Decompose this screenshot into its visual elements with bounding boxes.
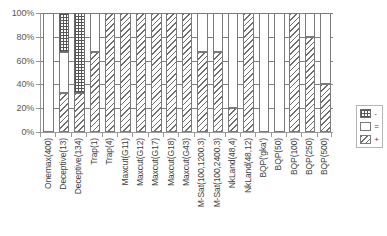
bar-slot: [118, 13, 133, 132]
stacked-bar[interactable]: [182, 13, 192, 132]
legend-item[interactable]: -: [360, 108, 379, 119]
x-label-cell: M-Sat(100,2400.3): [209, 138, 224, 236]
stacked-bar[interactable]: [213, 13, 223, 132]
stacked-bar[interactable]: [274, 13, 284, 132]
x-label-cell: BQP('gka'): [255, 138, 270, 236]
bar-segment-equal: [197, 13, 207, 52]
bar-slot: [302, 13, 317, 132]
x-tick-mark: [117, 133, 118, 137]
x-tick-cell: [209, 133, 224, 137]
bar-segment-equal: [59, 52, 69, 92]
stacked-bar[interactable]: [43, 13, 53, 132]
x-tick-mark: [209, 133, 210, 137]
x-tick-label: Deceptive(13): [58, 138, 68, 190]
x-tick-mark: [132, 133, 133, 137]
x-tick-label: Maxcut(G11): [120, 138, 130, 185]
x-tick-cell: [163, 133, 178, 137]
x-tick-cell: [301, 133, 316, 137]
stacked-bar[interactable]: [228, 13, 238, 132]
bar-segment-plus: [305, 37, 315, 132]
x-tick-cell: [132, 133, 147, 137]
stacked-bar[interactable]: [320, 13, 330, 132]
stacked-bar[interactable]: [136, 13, 146, 132]
bar-slot: [72, 13, 87, 132]
bar-slot: [179, 13, 194, 132]
x-axis-labels: Onemax(400)Deceptive(13)Deceptive(134)Tr…: [40, 138, 332, 236]
x-tick-label: NkLand(48,4): [227, 138, 237, 188]
bar-slot: [56, 13, 71, 132]
x-tick-label: NkLand(48,12): [243, 138, 253, 193]
legend-label: -: [374, 109, 377, 118]
stacked-bar[interactable]: [305, 13, 315, 132]
stacked-bar[interactable]: [120, 13, 130, 132]
stacked-bar[interactable]: [90, 13, 100, 132]
x-label-cell: Trap(4): [102, 138, 117, 236]
x-tick-cell: [71, 133, 86, 137]
bar-segment-plus: [228, 108, 238, 132]
bar-segment-equal: [228, 13, 238, 108]
x-label-cell: Maxcut(G43): [178, 138, 193, 236]
legend-swatch-icon: [360, 122, 371, 131]
stacked-bar[interactable]: [243, 13, 253, 132]
x-tick-label: BQP(50): [273, 138, 283, 170]
stacked-bar[interactable]: [289, 13, 299, 132]
x-label-cell: Onemax(400): [40, 138, 55, 236]
x-label-cell: Deceptive(134): [71, 138, 86, 236]
bar-segment-plus: [182, 13, 192, 132]
legend-item[interactable]: =: [360, 121, 379, 132]
bar-slot: [226, 13, 241, 132]
x-label-cell: Maxcut(G17): [148, 138, 163, 236]
plot-area: [40, 13, 333, 132]
stacked-bar[interactable]: [259, 13, 269, 132]
legend-label: +: [374, 135, 379, 144]
bar-segment-plus: [90, 52, 100, 132]
legend-item[interactable]: +: [360, 134, 379, 145]
bar-slot: [164, 13, 179, 132]
x-tick-label: Maxcut(G43): [181, 138, 191, 186]
y-tick-label: 80%: [17, 32, 34, 42]
x-tick-mark: [86, 133, 87, 137]
bar-slot: [287, 13, 302, 132]
bar-slot: [241, 13, 256, 132]
x-tick-mark: [301, 133, 302, 137]
x-tick-mark: [71, 133, 72, 137]
stacked-bar[interactable]: [105, 13, 115, 132]
y-tick-label: 40%: [17, 79, 34, 89]
stacked-bar[interactable]: [74, 13, 84, 132]
x-label-cell: Maxcut(G11): [117, 138, 132, 236]
bar-segment-plus: [166, 13, 176, 132]
bar-slot: [256, 13, 271, 132]
stacked-bar[interactable]: [166, 13, 176, 132]
x-tick-label: M-Sat(100,2400.3): [212, 138, 222, 207]
x-label-cell: M-Sat(100,1200.3): [194, 138, 209, 236]
x-tick-cell: [317, 133, 332, 137]
bar-segment-plus: [243, 13, 253, 132]
bar-segment-equal: [274, 13, 284, 132]
x-tick-mark: [255, 133, 256, 137]
bar-segment-minus: [59, 13, 69, 52]
x-tick-mark: [55, 133, 56, 137]
x-tick-mark: [240, 133, 241, 137]
x-tick-cell: [40, 133, 55, 137]
x-tick-cell: [55, 133, 70, 137]
bar-segment-plus: [105, 13, 115, 132]
x-tick-cell: [117, 133, 132, 137]
y-tick-label: 100%: [12, 8, 34, 18]
legend-swatch-icon: [360, 135, 371, 144]
y-tick-label: 60%: [17, 56, 34, 66]
bar-segment-equal: [259, 13, 269, 132]
bar-slot: [133, 13, 148, 132]
bar-segment-equal: [90, 13, 100, 52]
bar-segment-plus: [213, 52, 223, 132]
legend: -=+: [356, 105, 383, 148]
bar-segment-plus: [136, 13, 146, 132]
bar-segment-equal: [43, 13, 53, 132]
stacked-bar[interactable]: [59, 13, 69, 132]
x-tick-cell: [178, 133, 193, 137]
x-tick-label: BQP('gka'): [258, 138, 268, 178]
stacked-bar[interactable]: [151, 13, 161, 132]
stacked-bar[interactable]: [197, 13, 207, 132]
bar-segment-plus: [320, 84, 330, 132]
x-tick-mark: [331, 133, 332, 137]
x-tick-label: BQP(500): [319, 138, 329, 175]
